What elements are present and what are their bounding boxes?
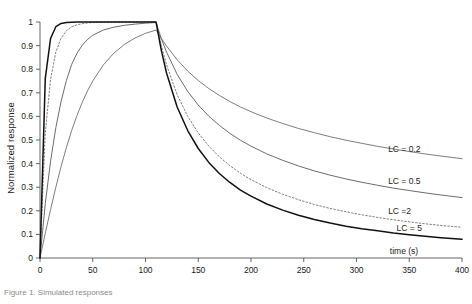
x-axis-title: time (s)	[390, 246, 419, 256]
x-tick-label: 250	[297, 265, 311, 275]
y-tick-label: 0.3	[21, 182, 33, 192]
y-tick-label: 0.8	[21, 64, 33, 74]
series-label: LC = 0.2	[388, 144, 421, 154]
chart-plot: 00.10.20.30.40.50.60.70.80.91 0501001502…	[0, 0, 472, 304]
y-axis-tick-group: 00.10.20.30.40.50.60.70.80.91	[21, 17, 40, 263]
y-tick-label: 0.1	[21, 229, 33, 239]
series-label: LC = 5	[397, 223, 423, 233]
y-tick-label: 0.6	[21, 111, 33, 121]
y-tick-label: 0.4	[21, 159, 33, 169]
y-tick-label: 0	[28, 253, 33, 263]
figure-container: Normalized response 00.10.20.30.40.50.60…	[0, 0, 472, 304]
x-tick-label: 200	[244, 265, 258, 275]
x-tick-label: 150	[191, 265, 205, 275]
x-tick-label: 350	[402, 265, 416, 275]
y-tick-label: 0.5	[21, 135, 33, 145]
x-tick-label: 300	[349, 265, 363, 275]
y-tick-label: 1	[28, 17, 33, 27]
figure-caption: Figure 1. Simulated responses	[4, 288, 304, 297]
x-tick-label: 50	[88, 265, 98, 275]
x-tick-label: 0	[38, 265, 43, 275]
series-label: LC =2	[388, 206, 411, 216]
x-tick-label: 400	[455, 265, 469, 275]
y-tick-label: 0.9	[21, 41, 33, 51]
x-tick-label: 100	[138, 265, 152, 275]
y-tick-label: 0.7	[21, 88, 33, 98]
x-axis-tick-group: 050100150200250300350400	[38, 258, 470, 275]
series-label: LC = 0.5	[388, 176, 421, 186]
y-tick-label: 0.2	[21, 206, 33, 216]
